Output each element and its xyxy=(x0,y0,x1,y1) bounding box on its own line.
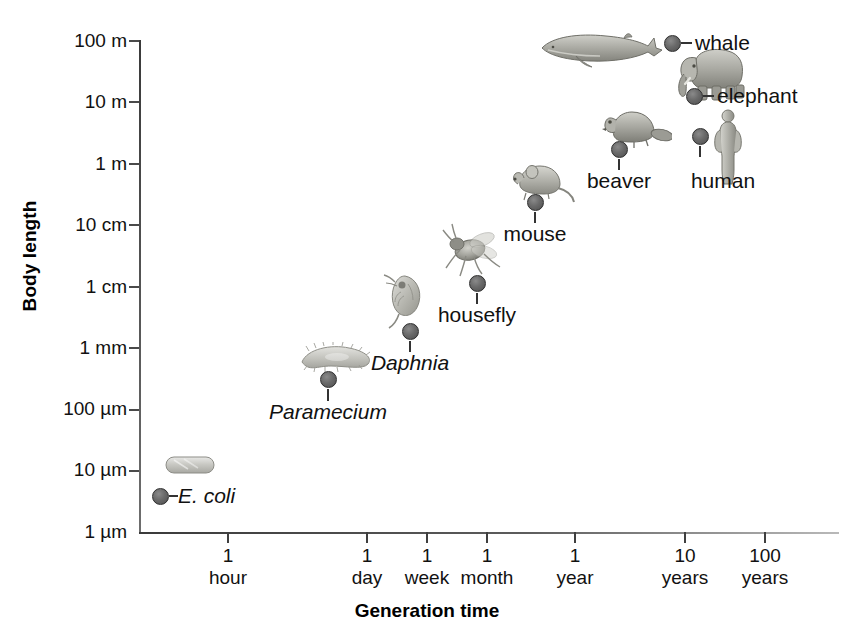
x-tick-number: 100 xyxy=(742,545,788,567)
x-tick-label-10-years: 10 years xyxy=(662,545,708,589)
chart-canvas: 100 m 10 m 1 m 10 cm 1 cm 1 mm 100 µm 10… xyxy=(0,0,854,634)
y-tick-text: 100 m xyxy=(74,31,127,50)
leader-line-whale xyxy=(681,42,692,44)
data-point-whale[interactable] xyxy=(664,35,681,52)
housefly-illustration xyxy=(440,222,504,278)
y-tick-mark xyxy=(129,409,139,411)
point-label-daphnia: Daphnia xyxy=(371,352,449,374)
y-tick-text: 10 m xyxy=(85,92,127,111)
x-tick-label-100-years: 100 years xyxy=(742,545,788,589)
y-tick-label-1m: 1 m xyxy=(0,154,127,174)
y-tick-mark xyxy=(129,224,139,226)
x-tick-label-1-day: 1 day xyxy=(352,545,383,589)
ecoli-illustration xyxy=(164,452,216,478)
x-tick-mark xyxy=(684,532,686,543)
y-tick-mark xyxy=(129,40,139,42)
x-tick-label-1-month: 1 month xyxy=(461,545,514,589)
point-label-human: human xyxy=(691,170,755,192)
point-label-whale: whale xyxy=(695,32,750,54)
y-tick-text: 1 mm xyxy=(80,338,128,357)
x-axis-title: Generation time xyxy=(0,600,854,622)
point-label-paramecium: Paramecium xyxy=(269,401,387,423)
point-label-ecoli: E. coli xyxy=(178,485,235,507)
x-tick-mark xyxy=(486,532,488,543)
data-point-paramecium[interactable] xyxy=(320,371,337,388)
x-tick-unit: month xyxy=(461,567,514,589)
x-tick-number: 1 xyxy=(557,545,594,567)
data-point-mouse[interactable] xyxy=(527,194,544,211)
y-tick-label-10um: 10 µm xyxy=(0,460,127,480)
y-tick-label-1um: 1 µm xyxy=(0,522,127,542)
data-point-ecoli[interactable] xyxy=(152,488,169,505)
x-axis-line xyxy=(139,532,839,534)
x-tick-label-1-year: 1 year xyxy=(557,545,594,589)
data-point-daphnia[interactable] xyxy=(402,323,419,340)
point-label-housefly: housefly xyxy=(438,304,516,326)
x-tick-mark xyxy=(227,532,229,543)
x-tick-unit: years xyxy=(662,567,708,589)
leader-line-human xyxy=(699,146,701,157)
data-point-elephant[interactable] xyxy=(686,88,703,105)
point-label-beaver: beaver xyxy=(587,170,651,192)
y-tick-label-100um: 100 µm xyxy=(0,399,127,419)
y-axis-title: Body length xyxy=(19,196,41,316)
paramecium-illustration xyxy=(297,342,375,378)
data-point-human[interactable] xyxy=(692,128,709,145)
x-tick-number: 1 xyxy=(405,545,449,567)
x-tick-number: 1 xyxy=(352,545,383,567)
y-tick-label-1mm: 1 mm xyxy=(0,338,127,358)
y-axis-line xyxy=(139,40,141,534)
y-tick-text: 100 µm xyxy=(63,399,127,418)
whale-illustration xyxy=(536,28,666,72)
x-tick-unit: day xyxy=(352,567,383,589)
y-tick-mark xyxy=(129,101,139,103)
y-tick-mark xyxy=(129,347,139,349)
x-tick-mark xyxy=(574,532,576,543)
point-label-elephant: elephant xyxy=(717,85,798,107)
x-tick-number: 1 xyxy=(461,545,514,567)
x-tick-label-1-hour: 1 hour xyxy=(209,545,247,589)
leader-line-elephant xyxy=(703,95,714,97)
point-label-mouse: mouse xyxy=(503,223,566,245)
data-point-housefly[interactable] xyxy=(469,275,486,292)
x-tick-number: 1 xyxy=(209,545,247,567)
x-tick-unit: year xyxy=(557,567,594,589)
x-tick-label-1-week: 1 week xyxy=(405,545,449,589)
daphnia-illustration xyxy=(383,272,427,330)
x-tick-mark xyxy=(764,532,766,543)
beaver-illustration xyxy=(600,104,672,150)
y-tick-text: 1 µm xyxy=(84,522,127,541)
y-tick-text: 1 m xyxy=(95,154,127,173)
y-tick-mark xyxy=(129,163,139,165)
x-tick-number: 10 xyxy=(662,545,708,567)
x-tick-unit: years xyxy=(742,567,788,589)
data-point-beaver[interactable] xyxy=(611,141,628,158)
y-tick-label-100m: 100 m xyxy=(0,31,127,51)
leader-line-ecoli xyxy=(169,495,178,497)
y-tick-label-10m: 10 m xyxy=(0,92,127,112)
x-tick-mark xyxy=(366,532,368,543)
y-tick-text: 10 cm xyxy=(75,215,127,234)
x-tick-mark xyxy=(426,532,428,543)
y-tick-text: 1 cm xyxy=(86,277,127,296)
y-tick-text: 10 µm xyxy=(74,460,127,479)
x-tick-unit: hour xyxy=(209,567,247,589)
y-tick-mark xyxy=(129,286,139,288)
x-tick-unit: week xyxy=(405,567,449,589)
y-tick-mark xyxy=(129,470,139,472)
